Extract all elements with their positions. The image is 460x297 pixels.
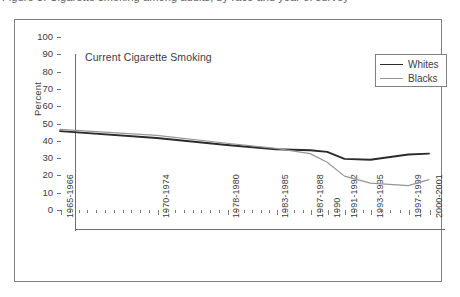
y-tick-label: 20: [27, 170, 53, 180]
x-tick-label: 1990: [332, 198, 342, 218]
x-tick-minor: [123, 210, 124, 213]
y-tick-label: 60: [27, 101, 53, 111]
y-tick-mark: [57, 193, 61, 194]
figure-caption-strip: Figure 3. Cigarette smoking among adults…: [0, 0, 460, 12]
legend-label: Whites: [408, 59, 439, 70]
x-tick-minor: [219, 210, 220, 213]
x-tick-minor: [400, 210, 401, 213]
y-tick-label: 100: [27, 32, 53, 42]
x-tick-minor: [252, 210, 253, 213]
x-tick-major: [345, 210, 346, 215]
x-tick-minor: [303, 210, 304, 213]
x-tick-label: 2000-2001: [434, 174, 444, 218]
y-tick-mark: [57, 175, 61, 176]
x-tick-minor: [201, 210, 202, 213]
x-tick-minor: [390, 210, 391, 213]
legend-label: Blacks: [408, 73, 437, 84]
x-tick-minor: [96, 210, 97, 213]
x-tick-major: [61, 210, 62, 215]
x-tick-minor: [363, 210, 364, 213]
x-tick-minor: [175, 210, 176, 213]
y-tick-mark: [57, 141, 61, 142]
x-tick-major: [228, 210, 229, 215]
x-tick-minor: [87, 210, 88, 213]
x-tick-major: [311, 210, 312, 215]
x-tick-minor: [210, 210, 211, 213]
x-tick-label: 1997-1999: [413, 174, 423, 218]
x-tick-minor: [269, 210, 270, 213]
y-tick-mark: [57, 124, 61, 125]
x-tick-minor: [140, 210, 141, 213]
x-tick-minor: [184, 210, 185, 213]
y-tick-label: 50: [27, 119, 53, 129]
x-tick-major: [409, 210, 410, 215]
x-tick-minor: [261, 210, 262, 213]
legend-item-blacks: Blacks: [380, 71, 437, 85]
chart-legend: WhitesBlacks: [375, 54, 447, 87]
y-tick-mark: [57, 158, 61, 159]
x-tick-minor: [149, 210, 150, 213]
x-tick-minor: [114, 210, 115, 213]
y-tick-label: 10: [27, 188, 53, 198]
plot-title: Current Cigarette Smoking: [85, 51, 212, 63]
x-tick-major: [371, 210, 372, 215]
y-tick-mark: [57, 72, 61, 73]
figure-caption-text: Figure 3. Cigarette smoking among adults…: [2, 0, 349, 3]
legend-item-whites: Whites: [380, 57, 439, 71]
y-tick-mark: [57, 37, 61, 38]
x-tick-major: [430, 210, 431, 215]
x-tick-label: 1991-1992: [349, 174, 359, 218]
x-tick-label: 1978-1980: [231, 174, 241, 218]
x-tick-label: 1965-1966: [65, 174, 75, 218]
y-tick-mark: [57, 106, 61, 107]
x-tick-label: 1993-1995: [375, 174, 385, 218]
y-tick-label: 30: [27, 153, 53, 163]
x-tick-major: [277, 210, 278, 215]
y-tick-label: 0: [27, 205, 53, 215]
x-tick-label: 1970-1974: [161, 174, 171, 218]
y-tick-mark: [57, 89, 61, 90]
y-tick-label: 70: [27, 84, 53, 94]
y-tick-label: 90: [27, 49, 53, 59]
x-tick-label: 1987-1988: [315, 174, 325, 218]
legend-swatch-whites: [380, 64, 403, 65]
x-tick-label: 1983-1985: [280, 174, 290, 218]
x-tick-minor: [294, 210, 295, 213]
x-tick-minor: [105, 210, 106, 213]
y-axis-line: [75, 54, 76, 231]
legend-swatch-blacks: [380, 78, 403, 79]
x-axis-line: [75, 229, 445, 230]
y-tick-label: 80: [27, 67, 53, 77]
x-tick-minor: [193, 210, 194, 213]
x-tick-major: [158, 210, 159, 215]
y-tick-mark: [57, 54, 61, 55]
x-tick-minor: [244, 210, 245, 213]
figure-frame: Current Cigarette Smoking Percent 010203…: [14, 19, 442, 282]
y-tick-label: 40: [27, 136, 53, 146]
x-tick-major: [328, 210, 329, 215]
x-tick-minor: [131, 210, 132, 213]
x-tick-minor: [79, 210, 80, 213]
